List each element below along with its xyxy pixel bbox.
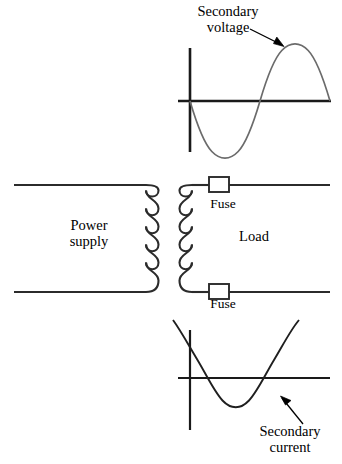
fuse-bottom-label: Fuse <box>199 297 247 312</box>
power-supply-label: Power supply <box>34 218 144 249</box>
fuse-top-symbol <box>209 177 229 192</box>
secondary-current-label: Secondary current <box>240 424 340 455</box>
current-cosine-curve <box>173 320 299 407</box>
secondary-voltage-plot <box>178 29 331 158</box>
load-label: Load <box>218 229 290 245</box>
fuse-top-label: Fuse <box>199 197 247 212</box>
current-annotation-arrow <box>281 396 304 424</box>
secondary-current-plot <box>173 320 330 430</box>
transformer-phase-diagram: Secondary voltage Secondary current Powe… <box>0 0 342 464</box>
secondary-voltage-label: Secondary voltage <box>176 4 280 35</box>
